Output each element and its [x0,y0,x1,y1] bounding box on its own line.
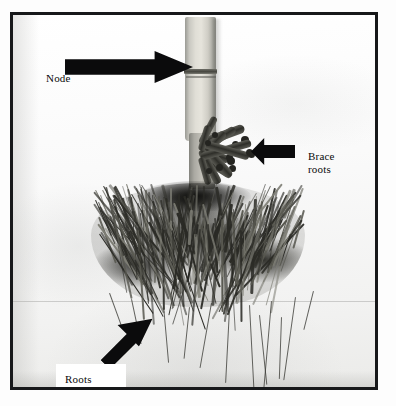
photo-frame: Node Brace roots Roots [10,12,378,390]
brace-root-tip [212,132,218,138]
brace-root-tip [206,168,212,174]
label-brace-roots: Brace roots [308,150,335,175]
brace-root-tip [227,157,235,165]
trailing-root [279,317,283,379]
figure-root: Node Brace roots Roots [0,0,396,406]
fibrous-root-mass [79,181,317,317]
trailing-root [249,305,255,390]
brace-root-tip [216,164,223,171]
stalk-node-secondary-line [186,76,216,78]
brace-root-tip [205,140,211,146]
label-node: Node [46,72,71,85]
stalk-node [184,69,217,74]
label-roots: Roots [65,373,92,386]
